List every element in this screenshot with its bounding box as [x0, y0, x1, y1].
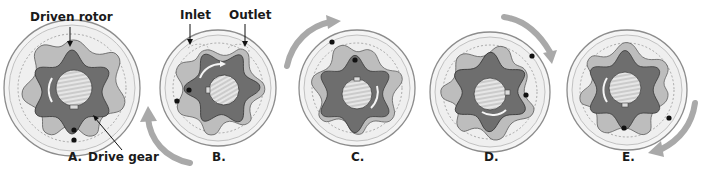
- inlet-label: Inlet: [180, 8, 211, 22]
- stage-e-pump: [567, 30, 687, 150]
- stage-a-label: A.: [68, 150, 82, 164]
- driven-rotor-label: Driven rotor: [30, 10, 113, 24]
- stage-a-pump: [4, 20, 140, 156]
- stage-d-label: D.: [484, 150, 499, 164]
- diagram-graphics: [0, 0, 710, 173]
- gerotor-diagram: Driven rotor Inlet Outlet Drive gear A. …: [0, 0, 710, 173]
- stage-c-label: C.: [351, 150, 364, 164]
- outlet-label: Outlet: [229, 8, 271, 22]
- stage-b-pump: [160, 30, 276, 146]
- stage-d-pump: [427, 31, 550, 155]
- stage-c-pump: [299, 30, 415, 146]
- stage-e-label: E.: [622, 150, 635, 164]
- stage-b-label: B.: [212, 150, 226, 164]
- drive-gear-label: Drive gear: [88, 150, 159, 164]
